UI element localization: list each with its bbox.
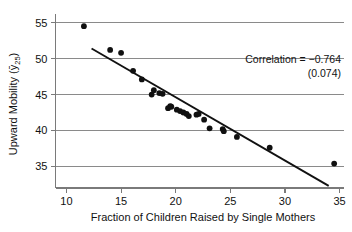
y-axis-title-subscript: 25 [13,56,22,64]
x-tick-label-15: 15 [115,195,127,207]
data-point [201,117,207,123]
y-tick-label-50: 50 [35,53,47,65]
y-tick-label-35: 35 [35,160,47,172]
gridlines-group [56,23,345,167]
chart-canvas: 3540455055 101520253035 Fraction of Chil… [0,0,352,232]
data-point [207,125,213,131]
y-tick-label-55: 55 [35,17,47,29]
data-point [196,111,202,117]
axis-lines-group [56,14,345,188]
data-point [160,91,166,97]
y-tick-labels-group: 3540455055 [35,17,47,173]
data-point [267,145,273,151]
correlation-annotation: Correlation = −0.764 [245,53,341,65]
x-tick-labels-group: 101520253035 [60,195,345,207]
data-point [107,47,113,53]
data-point [168,104,174,110]
data-point [151,87,157,93]
data-point [186,113,192,119]
x-tick-label-25: 25 [224,195,236,207]
data-point [221,128,227,134]
y-tick-label-45: 45 [35,89,47,101]
standard-error-annotation: (0.074) [308,67,341,79]
regression-line [92,49,329,186]
y-tick-label-40: 40 [35,124,47,136]
x-tick-label-10: 10 [60,195,72,207]
x-tick-label-20: 20 [170,195,182,207]
data-point [118,50,124,56]
y-axis-title-close: ) [7,53,19,57]
x-tick-label-30: 30 [279,195,291,207]
svg-text:Upward Mobility (ȳ25): Upward Mobility (ȳ25) [7,53,22,155]
x-tick-label-35: 35 [334,195,346,207]
y-axis-title-main: Upward Mobility ( [7,70,19,155]
data-point [81,23,87,29]
data-point [130,68,136,74]
y-axis-title: Upward Mobility (ȳ25) [7,53,22,155]
data-point [139,77,145,83]
x-axis-title: Fraction of Children Raised by Single Mo… [91,211,316,223]
data-point [331,161,337,167]
data-point [234,134,240,140]
regression-line-group [92,49,329,186]
scatter-plot-figure: 3540455055 101520253035 Fraction of Chil… [0,0,352,232]
